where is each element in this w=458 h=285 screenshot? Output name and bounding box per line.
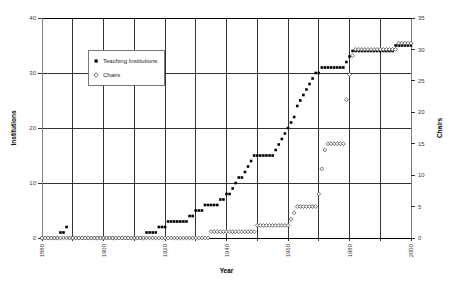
data-point-institution: [253, 154, 256, 157]
x-axis-tick-label: 1900: [101, 243, 107, 257]
chart-legend: Teaching InstitutionsChairs: [88, 50, 164, 85]
data-point-institution: [191, 215, 194, 218]
data-point-institution: [145, 231, 148, 234]
data-point-institution: [244, 171, 247, 174]
data-point-institution: [247, 165, 250, 168]
data-point-chair: [289, 217, 293, 221]
data-point-institution: [394, 44, 397, 47]
data-point-institution: [302, 94, 305, 97]
left-axis-tick-label: 10: [29, 180, 36, 186]
x-axis-tick-label: 1880: [39, 243, 45, 257]
data-point-chair: [409, 41, 413, 45]
x-axis-tick-label: 1960: [285, 243, 291, 257]
left-axis-tick-label: 0: [33, 235, 37, 241]
data-point-institution: [330, 66, 333, 69]
data-point-institution: [265, 154, 268, 157]
data-point-institution: [59, 231, 62, 234]
data-point-institution: [62, 231, 65, 234]
legend-background: [88, 50, 164, 85]
right-axis-tick-label: 5: [418, 204, 422, 210]
x-axis-tick-label: 2000: [408, 243, 414, 257]
data-point-institution: [256, 154, 259, 157]
data-point-institution: [210, 204, 213, 207]
data-point-institution: [299, 99, 302, 102]
data-point-chair: [345, 98, 349, 102]
data-point-chair: [252, 230, 256, 234]
data-point-institution: [204, 204, 207, 207]
x-axis-tick-label: 1980: [347, 243, 353, 257]
data-point-institution: [176, 220, 179, 223]
data-point-institution: [170, 220, 173, 223]
data-point-institution: [314, 72, 317, 75]
left-axis-tick-label: 20: [29, 125, 36, 131]
data-point-chair: [317, 192, 321, 196]
data-point-institution: [333, 66, 336, 69]
data-point-institution: [213, 204, 216, 207]
x-axis-title: Year: [220, 267, 234, 274]
data-point-institution: [321, 66, 324, 69]
data-point-institution: [231, 187, 234, 190]
data-point-institution: [151, 231, 154, 234]
data-point-institution: [241, 176, 244, 179]
data-point-institution: [219, 198, 222, 201]
data-point-institution: [225, 193, 228, 196]
data-point-institution: [339, 66, 342, 69]
data-point-institution: [188, 215, 191, 218]
data-point-institution: [194, 209, 197, 212]
right-axis-tick-label: 10: [418, 172, 425, 178]
data-point-institution: [182, 220, 185, 223]
data-point-institution: [216, 204, 219, 207]
data-point-institution: [158, 226, 161, 229]
legend-marker-institutions: [95, 59, 98, 62]
data-point-institution: [293, 116, 296, 119]
scatter-chart: 0102030400510152025303518801900192019401…: [0, 0, 458, 285]
data-point-institution: [311, 77, 314, 80]
data-point-chair: [314, 205, 318, 209]
data-point-institution: [274, 149, 277, 152]
data-point-institution: [305, 88, 308, 91]
data-point-institution: [148, 231, 151, 234]
data-point-chair: [394, 48, 398, 52]
right-axis-tick-label: 20: [418, 109, 425, 115]
data-point-institution: [281, 138, 284, 141]
data-point-institution: [324, 66, 327, 69]
data-point-chair: [341, 142, 345, 146]
data-point-chair: [292, 211, 296, 215]
data-point-institution: [277, 143, 280, 146]
data-point-institution: [284, 132, 287, 135]
data-point-chair: [206, 236, 210, 240]
data-point-institution: [262, 154, 265, 157]
legend-label-chairs: Chairs: [103, 72, 120, 78]
data-point-institution: [234, 182, 237, 185]
data-point-institution: [250, 160, 253, 163]
data-point-institution: [290, 121, 293, 124]
data-point-institution: [259, 154, 262, 157]
data-point-institution: [161, 226, 164, 229]
data-point-institution: [179, 220, 182, 223]
data-point-institution: [296, 105, 299, 108]
data-point-chair: [320, 167, 324, 171]
y2-axis-title: Chairs: [436, 118, 443, 139]
data-point-institution: [317, 72, 320, 75]
data-point-institution: [351, 50, 354, 53]
legend-label-institutions: Teaching Institutions: [103, 58, 157, 64]
x-axis-tick-label: 1920: [162, 243, 168, 257]
data-point-institution: [154, 231, 157, 234]
left-axis-tick-label: 30: [29, 70, 36, 76]
right-axis-tick-label: 25: [418, 78, 425, 84]
data-point-institution: [201, 209, 204, 212]
right-axis-tick-label: 35: [418, 15, 425, 21]
data-point-chair: [323, 148, 327, 152]
data-point-institution: [173, 220, 176, 223]
data-point-institution: [287, 127, 290, 130]
data-point-institution: [185, 220, 188, 223]
right-axis-tick-label: 15: [418, 141, 425, 147]
data-point-institution: [342, 66, 345, 69]
left-axis-tick-label: 40: [29, 15, 36, 21]
right-axis-tick-label: 30: [418, 47, 425, 53]
data-point-institution: [228, 193, 231, 196]
data-point-institution: [336, 66, 339, 69]
right-axis-tick-label: 0: [418, 235, 422, 241]
data-point-institution: [308, 83, 311, 86]
data-point-institution: [268, 154, 271, 157]
